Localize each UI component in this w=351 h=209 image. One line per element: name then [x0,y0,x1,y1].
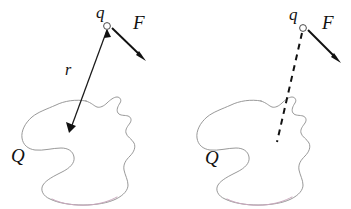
label-force-f-right: F [322,13,334,32]
charged-body-outline-left [22,97,135,205]
figure-canvas [0,0,351,209]
label-charge-q-right: q [289,6,298,23]
label-force-f-left: F [133,13,145,32]
right-panel-group [197,25,341,206]
label-body-q-right: Q [205,148,219,167]
point-charge-marker-left [104,23,111,30]
label-body-q-left: Q [11,146,25,165]
point-charge-marker-right [300,25,307,32]
left-panel-group [22,23,146,206]
label-distance-r: r [65,62,71,78]
physics-figure: q F r Q q F Q [0,0,351,209]
force-vector-line-right [308,30,336,58]
label-charge-q-left: q [96,4,105,21]
